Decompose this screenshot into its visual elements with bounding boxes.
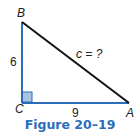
hypotenuse-label: c = ? <box>76 47 103 61</box>
figure-caption: Figure 20–19 <box>0 117 140 132</box>
right-angle-marker <box>22 92 32 102</box>
vertex-c-label: C <box>15 102 24 116</box>
hypotenuse-ab <box>22 22 129 103</box>
vertex-b-label: B <box>17 6 25 20</box>
side-bc-label: 6 <box>10 55 17 69</box>
